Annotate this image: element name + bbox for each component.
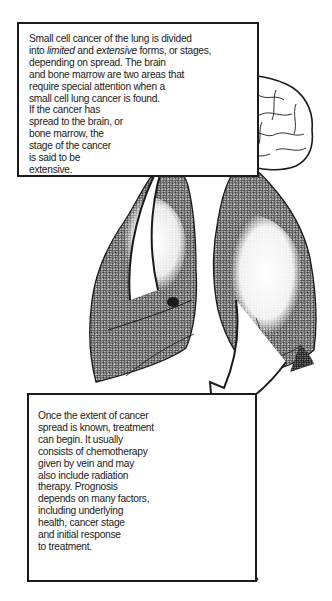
callout-line: small cell lung cancer is found. xyxy=(29,93,257,105)
text: and xyxy=(75,45,96,56)
tumor-spot xyxy=(167,297,179,307)
callout-line: therapy. Prognosis xyxy=(38,481,255,493)
callout-line: Small cell cancer of the lung is divided xyxy=(29,33,257,45)
callout-line: spread to the brain, or xyxy=(29,116,257,128)
bottom-callout-box: Once the extent of cancer spread is know… xyxy=(27,393,257,582)
text: forms, or stages, xyxy=(137,45,211,56)
callout-line: given by vein and may xyxy=(38,458,255,470)
callout-line-stages: into limited and extensive forms, or sta… xyxy=(29,45,257,57)
callout-line: also include radiation xyxy=(38,470,255,482)
term-extensive: extensive xyxy=(96,45,137,56)
callout-line: extensive. xyxy=(29,164,257,176)
top-callout-box: Small cell cancer of the lung is divided… xyxy=(17,22,259,177)
callout-line: If the cancer has xyxy=(29,104,257,116)
callout-line: require special attention when a xyxy=(29,81,257,93)
callout-line: depending on spread. The brain xyxy=(29,57,257,69)
callout-line: stage of the cancer xyxy=(29,140,257,152)
callout-line: Once the extent of cancer xyxy=(38,410,255,422)
callout-line: and initial response xyxy=(38,529,255,541)
callout-line: to treatment. xyxy=(38,541,255,553)
callout-line: bone marrow, the xyxy=(29,128,257,140)
callout-line: including underlying xyxy=(38,505,255,517)
text: into xyxy=(29,45,47,56)
callout-line: consists of chemotherapy xyxy=(38,446,255,458)
callout-line: depends on many factors, xyxy=(38,493,255,505)
term-limited: limited xyxy=(47,45,75,56)
callout-line: spread is known, treatment xyxy=(38,422,255,434)
callout-line: is said to be xyxy=(29,152,257,164)
callout-line: health, cancer stage xyxy=(38,517,255,529)
callout-line: and bone marrow are two areas that xyxy=(29,69,257,81)
callout-line: can begin. It usually xyxy=(38,434,255,446)
